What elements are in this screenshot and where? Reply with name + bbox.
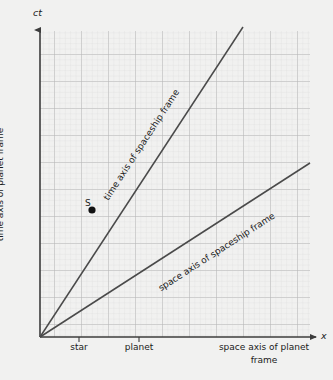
ct-axis-label: ct xyxy=(33,8,42,18)
event-point-s-label: S xyxy=(85,199,91,208)
grid-pattern xyxy=(40,31,310,337)
tick-label-star: star xyxy=(70,343,87,352)
space-axis-planet-label: space axis of planet frame xyxy=(209,341,319,367)
grid-area xyxy=(40,31,310,337)
diagram-canvas xyxy=(0,0,333,380)
spacetime-diagram: ct x star planet S time axis of planet f… xyxy=(0,0,333,380)
x-axis-label: x xyxy=(321,331,327,341)
time-axis-planet-label: time axis of planet frame xyxy=(0,128,5,242)
tick-label-planet: planet xyxy=(125,343,154,352)
